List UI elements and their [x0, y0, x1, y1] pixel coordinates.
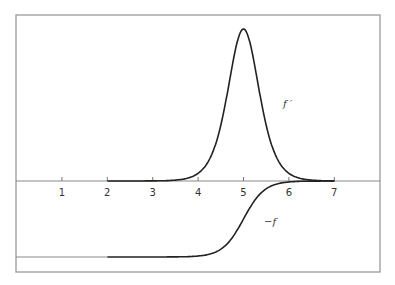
- f-prime-label: f ′: [282, 98, 293, 109]
- f-prime-curve: [107, 29, 334, 181]
- plot-frame: [16, 15, 380, 272]
- x-tick-label: 2: [104, 187, 110, 198]
- x-ticks: 1234567: [59, 177, 338, 198]
- x-tick-label: 7: [331, 187, 337, 198]
- x-tick-label: 3: [150, 187, 156, 198]
- minus-f-label: −f: [264, 216, 278, 227]
- x-tick-label: 6: [286, 187, 292, 198]
- minus-f-curve: [107, 181, 334, 257]
- x-tick-label: 4: [195, 187, 201, 198]
- x-tick-label: 1: [59, 187, 65, 198]
- chart-canvas: 1234567 f ′ −f: [0, 0, 395, 285]
- x-tick-label: 5: [240, 187, 246, 198]
